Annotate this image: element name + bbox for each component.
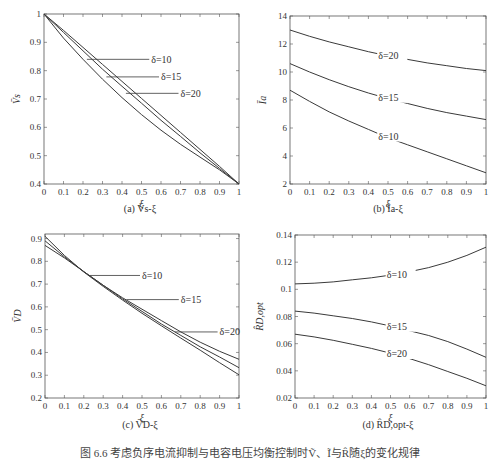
x-tick-label: 0.4 [116,187,128,197]
y-tick-label: 8 [283,95,288,105]
x-tick-label: 0.8 [195,401,207,411]
x-tick-label: 0.6 [402,187,414,197]
x-tick-label: 0.7 [423,401,435,411]
plot-frame [45,234,239,398]
y-tick-label: 0.2 [31,393,42,403]
x-tick-label: 0.5 [382,187,394,197]
x-tick-label: 0.4 [366,401,378,411]
x-tick-label: 0.7 [175,401,187,411]
y-tick-label: 0.3 [31,370,43,380]
x-tick-label: 0.5 [385,401,397,411]
series-annotation: δ=20 [220,326,240,337]
chart-d: 00.10.20.30.40.50.60.70.80.910.020.040.0… [253,230,488,424]
series-line-delta-20 [44,14,239,184]
series-line-delta-20 [295,334,486,386]
x-tick-label: 0.3 [97,187,109,197]
y-tick-label: 0.1 [281,284,292,294]
y-tick-label: 0.14 [276,230,292,240]
subplot-caption-d: (d) R̂D,opt-ξ [328,419,448,430]
series-annotation: δ=15 [378,92,398,103]
x-tick-label: 0 [293,401,298,411]
y-tick-label: 0.8 [31,256,43,266]
x-tick-label: 0.1 [59,401,70,411]
x-tick-label: 0.6 [404,401,416,411]
x-tick-label: 0.6 [155,187,167,197]
chart-b: 00.10.20.30.40.50.60.70.80.912468101214ξ… [257,11,488,210]
x-tick-label: 0.8 [442,401,454,411]
series-annotation: δ=10 [142,270,162,281]
x-tick-label: 0.6 [156,401,168,411]
x-tick-label: 0.4 [117,401,129,411]
x-tick-label: 0.9 [214,187,226,197]
chart-c: 00.10.20.30.40.50.60.70.80.910.20.30.40.… [12,234,241,424]
x-tick-label: 0.3 [343,187,355,197]
series-annotation: δ=10 [378,131,398,142]
y-axis-label: Īa [257,96,268,105]
y-tick-label: 0.7 [30,94,42,104]
subplot-caption-c: (c) V̄D-ξ [80,419,200,430]
x-tick-label: 0.9 [461,401,473,411]
x-tick-label: 0 [43,401,48,411]
x-tick-label: 0.2 [328,401,339,411]
y-axis-label: V̄D [12,309,23,323]
y-tick-label: 12 [278,39,287,49]
x-tick-label: 0.9 [461,187,473,197]
series-annotation: δ=20 [387,348,407,359]
x-tick-label: 1 [237,187,242,197]
y-tick-label: 0.06 [276,339,292,349]
series-line-delta-15 [45,241,239,368]
y-tick-label: 1 [37,9,42,19]
x-tick-label: 1 [484,187,489,197]
x-tick-label: 0.5 [136,401,148,411]
y-tick-label: 0.04 [276,366,292,376]
y-tick-label: 6 [283,123,288,133]
y-tick-label: 0.5 [31,325,43,335]
series-annotation: δ=10 [387,269,407,280]
subplot-caption-a: (a) V̄s-ξ [80,203,200,214]
series-annotation: δ=15 [387,321,407,332]
x-tick-label: 0.2 [78,401,89,411]
y-tick-label: 2 [283,179,288,189]
x-tick-label: 0.1 [58,187,69,197]
x-tick-label: 0.2 [324,187,335,197]
y-tick-label: 0.12 [276,257,292,267]
y-tick-label: 14 [278,11,288,21]
x-tick-label: 0.2 [77,187,88,197]
x-tick-label: 1 [237,401,242,411]
x-tick-label: 0.8 [194,187,206,197]
series-annotation: δ=10 [151,54,171,65]
y-tick-label: 0.9 [31,234,43,244]
x-tick-label: 0.8 [441,187,453,197]
figure-caption: 图 6.6 考虑负序电流抑制与电容电压均衡控制时Ṽ、Ĩ与R̂随ξ的变化规律 [0,444,500,460]
y-tick-label: 0.4 [31,347,43,357]
subplot-caption-b: (b) Īa-ξ [328,203,448,214]
x-tick-label: 0.5 [136,187,148,197]
y-tick-label: 0.02 [276,393,292,403]
series-annotation: δ=15 [181,294,201,305]
y-tick-label: 0.4 [30,179,42,189]
x-tick-label: 0.1 [308,401,319,411]
y-tick-label: 0.08 [276,312,292,322]
series-line-delta-10 [45,245,239,359]
y-tick-label: 0.5 [30,151,42,161]
y-axis-label: V̄s [11,94,22,104]
y-tick-label: 0.9 [30,37,42,47]
y-tick-label: 4 [283,151,288,161]
plot-frame [295,235,486,398]
x-tick-label: 0 [42,187,47,197]
series-line-delta-20 [45,236,239,374]
y-tick-label: 0.7 [31,279,43,289]
x-tick-label: 0.1 [304,187,315,197]
x-tick-label: 0.9 [214,401,226,411]
x-tick-label: 0.3 [347,401,359,411]
x-tick-label: 0.3 [98,401,110,411]
x-tick-label: 0.7 [422,187,434,197]
series-annotation: δ=20 [181,88,201,99]
y-tick-label: 0.6 [30,122,42,132]
y-tick-label: 0.6 [31,302,43,312]
chart-a: 00.10.20.30.40.50.60.70.80.910.40.50.60.… [11,9,241,210]
x-tick-label: 0 [288,187,293,197]
series-annotation: δ=20 [378,50,398,61]
y-tick-label: 0.8 [30,66,42,76]
